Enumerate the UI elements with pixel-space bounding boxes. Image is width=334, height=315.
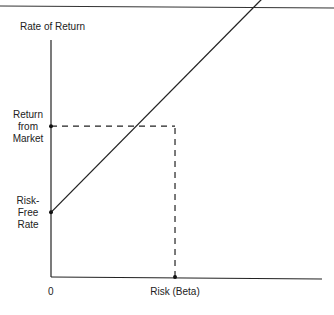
y-annotation-1-line-1: Free	[18, 207, 39, 218]
y-annotation-1-line-0: Risk-	[17, 195, 40, 206]
data-point-1	[49, 124, 53, 128]
y-annotation-1-line-2: Rate	[17, 219, 39, 230]
x-axis	[51, 277, 322, 279]
capm-chart: Rate of Return 0 Risk (Beta) ReturnfromM…	[0, 0, 334, 315]
x-axis-label: Risk (Beta)	[150, 286, 199, 297]
y-annotation-0-line-1: from	[18, 121, 38, 132]
top-border	[0, 6, 334, 8]
x-tick-label-0: 0	[48, 286, 54, 297]
y-axis-label: Rate of Return	[20, 21, 85, 32]
y-annotation-0-line-2: Market	[13, 133, 44, 144]
data-point-2	[173, 275, 177, 279]
data-point-0	[49, 210, 53, 214]
y-annotation-0-line-0: Return	[13, 109, 43, 120]
